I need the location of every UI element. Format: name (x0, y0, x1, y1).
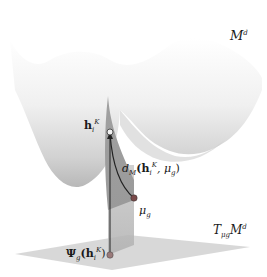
point-mu-icon (131, 195, 137, 201)
point-h-label: hiK (84, 120, 99, 131)
manifold-diagram: Md hiK dM(hiK, μg) μg TμgMd Ψg(hiK) (0, 0, 267, 277)
manifold-label: Md (230, 29, 248, 42)
distance-label: dM(hiK, μg) (122, 163, 180, 174)
tangent-space-label: TμgMd (213, 224, 247, 236)
psi-label: Ψg(hiK) (66, 248, 106, 259)
mu-label: μg (139, 205, 151, 216)
point-h-icon (107, 129, 113, 135)
point-psi-icon (107, 252, 113, 258)
